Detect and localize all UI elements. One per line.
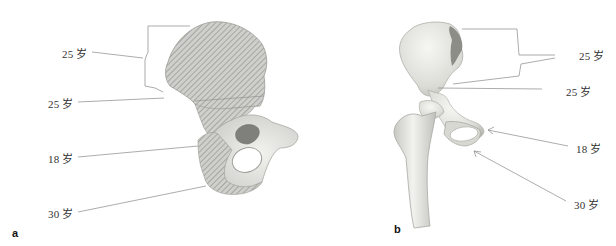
age-label-iliac-crest-a: 25 岁	[62, 45, 88, 61]
leader-line-b-3	[488, 127, 568, 146]
leader-line-b-1	[453, 29, 555, 84]
panel-b: 25 岁 25 岁 18 岁 30 岁 b	[380, 0, 616, 246]
age-label-ischial-spine-a: 18 岁	[48, 150, 74, 166]
age-label-aiis-a: 25 岁	[48, 95, 74, 111]
panel-label-a: a	[12, 227, 18, 239]
panel-label-b: b	[394, 223, 401, 235]
leader-line-a-3	[78, 146, 198, 157]
age-label-pubic-b: 18 岁	[576, 140, 602, 156]
age-label-aiis-b: 25 岁	[566, 83, 592, 99]
leader-line-b-4	[474, 151, 566, 201]
leader-line-b-2	[438, 88, 542, 89]
age-label-ischial-tuberosity-a: 30 岁	[48, 205, 74, 221]
age-label-iliac-crest-b: 25 岁	[579, 47, 605, 63]
panel-a: 25 岁 25 岁 18 岁 30 岁 a	[0, 0, 320, 246]
leader-line-a-4	[78, 186, 206, 212]
age-label-ischial-tuberosity-b: 30 岁	[574, 196, 600, 212]
leader-line-a-2	[78, 98, 164, 102]
